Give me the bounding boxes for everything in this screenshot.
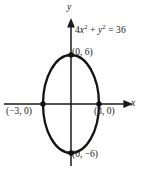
- point-label-left: (−3, 0): [6, 107, 32, 117]
- point-label-right: (3, 0): [94, 107, 115, 117]
- ellipse-figure: 4x2 + y2 = 36 (0, 6) (−3, 0) (3, 0) (0, …: [0, 0, 144, 170]
- y-axis-label: y: [67, 3, 71, 13]
- point-label-top: (0, 6): [72, 48, 93, 58]
- equation-exp-y: 2: [102, 23, 105, 30]
- equation-exp-x: 2: [84, 23, 87, 30]
- equation-plus: +: [90, 25, 95, 35]
- x-axis-label: x: [131, 99, 135, 109]
- point-label-bottom: (0, −6): [72, 150, 98, 160]
- equation-label: 4x2 + y2 = 36: [75, 26, 126, 36]
- vertex-dot-left: [40, 101, 45, 106]
- equation-equals: =: [108, 25, 113, 35]
- equation-rhs: 36: [116, 25, 126, 35]
